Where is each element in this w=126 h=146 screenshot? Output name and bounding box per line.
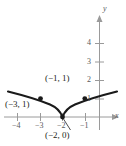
x-tick-label-minus1: −1 (80, 122, 89, 130)
y-axis-arrow (97, 15, 103, 22)
x-tick-label-minus2: −2 (57, 122, 66, 130)
y-tick-label-2: 2 (87, 76, 91, 84)
point-minus2-0 (60, 115, 65, 120)
y-tick-label-4: 4 (87, 39, 91, 47)
x-tick-label-minus4: −4 (12, 122, 21, 130)
graph-figure: x y −4 −3 −2 −1 4 3 2 1 (−3, 1) (−1, 1) … (0, 0, 126, 146)
point-minus3-1 (38, 96, 43, 101)
y-axis-label: y (103, 5, 107, 13)
point-label-minus1-1: (−1, 1) (45, 74, 70, 83)
x-axis-label: x (115, 112, 119, 120)
x-tick-label-minus3: −3 (35, 122, 44, 130)
y-tick-label-1: 1 (87, 95, 91, 103)
point-label-minus2-0: (−2, 0) (45, 131, 70, 140)
y-tick-label-3: 3 (87, 58, 91, 66)
point-label-minus3-1: (−3, 1) (5, 100, 30, 109)
